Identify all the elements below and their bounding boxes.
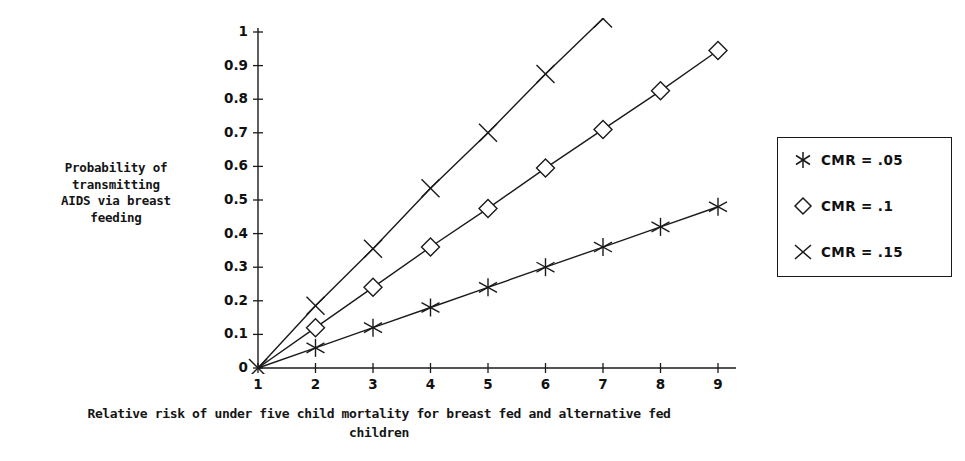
legend-item-label: CMR = .1 — [821, 198, 893, 214]
asterisk-marker-icon — [790, 148, 816, 172]
legend-item-label: CMR = .05 — [821, 152, 903, 168]
diamond-marker-icon — [790, 194, 816, 218]
legend-item[interactable]: CMR = .1 — [790, 194, 893, 218]
legend: CMR = .05 CMR = .1 CMR = .15 — [777, 137, 952, 277]
chart-figure: Probability of transmitting AIDS via bre… — [0, 0, 965, 461]
legend-item[interactable]: CMR = .05 — [790, 148, 903, 172]
legend-item-label: CMR = .15 — [821, 244, 903, 260]
legend-item[interactable]: CMR = .15 — [790, 240, 903, 264]
cross-marker-icon — [790, 240, 816, 264]
